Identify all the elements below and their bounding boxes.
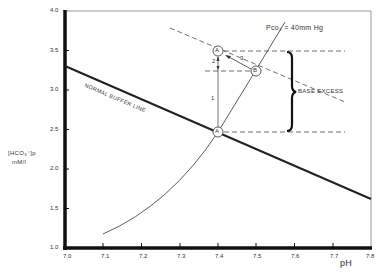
x-tick-label: 7.0: [63, 253, 71, 259]
step-3-label: 3: [240, 55, 244, 61]
pco2-label: Pco₂ = 40mm Hg: [266, 24, 323, 31]
pco2-isobar-curve: [103, 22, 285, 234]
point-a-upper-label: A: [215, 47, 219, 53]
step-2-label: 2: [212, 58, 216, 64]
base-excess-brace: [287, 52, 296, 131]
step-1-label: 1: [211, 95, 215, 101]
y-tick-label: 4.0: [50, 7, 58, 13]
x-tick-label: 7.5: [253, 253, 261, 259]
y-tick-label: 3.5: [50, 47, 58, 53]
arrow-head-2: [217, 66, 220, 70]
x-tick-label: 7.8: [366, 253, 374, 259]
y-axis-label: [HCO₃⁻]p: [8, 149, 36, 156]
x-tick-label: 7.2: [139, 253, 147, 259]
y-tick-label: 1.0: [50, 244, 58, 250]
base-excess-label: BASE EXCESS: [298, 88, 343, 94]
y-tick-label: 2.5: [50, 126, 58, 132]
x-tick-label: 7.4: [215, 253, 223, 259]
y-tick-label: 3.0: [50, 86, 58, 92]
arrow-step-3: [227, 56, 251, 69]
x-tick-label: 7.7: [330, 253, 338, 259]
x-axis-label: pH: [340, 258, 352, 268]
y-tick-label: 2.0: [50, 165, 58, 171]
x-tick-label: 7.1: [101, 253, 109, 259]
y-tick-label: 1.5: [50, 205, 58, 211]
x-tick-label: 7.3: [177, 253, 185, 259]
chart-canvas: [0, 0, 383, 276]
y-axis-unit: mM/l: [12, 159, 26, 165]
point-a-lower-label: A: [215, 128, 219, 134]
arrow-head-1: [217, 56, 220, 61]
arrow-head-3: [225, 55, 231, 59]
point-b-label: B: [253, 67, 257, 73]
x-tick-label: 7.6: [291, 253, 299, 259]
